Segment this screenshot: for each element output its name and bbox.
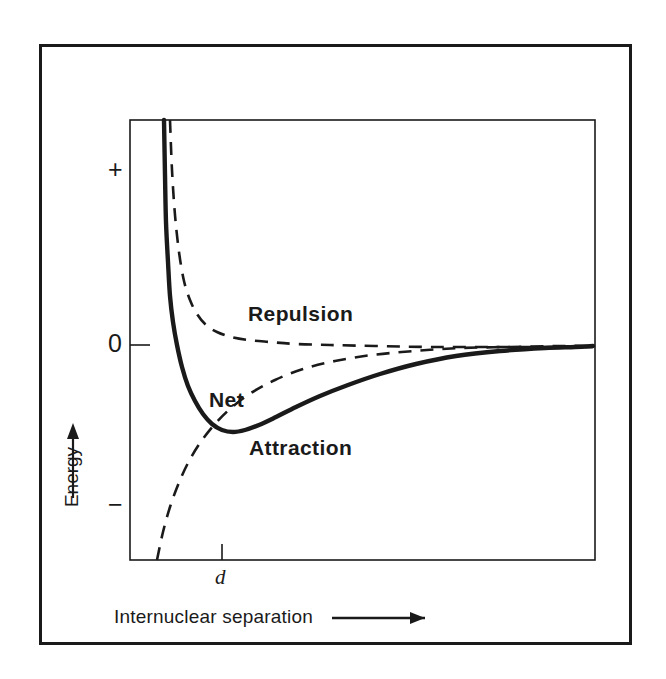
data-curves: [157, 120, 593, 560]
figure-page: + 0 − d Repulsion Net Attraction Energy …: [0, 0, 666, 679]
series-label-net: Net: [209, 388, 244, 412]
y-tick-label-plus: +: [108, 157, 123, 182]
y-tick-label-minus: −: [108, 492, 123, 517]
chart-canvas: [0, 0, 666, 679]
y-tick-label-zero: 0: [108, 331, 122, 356]
y-axis-label: Energy: [48, 400, 88, 570]
plot-frame: [130, 120, 595, 560]
curve-repulsion: [170, 120, 593, 347]
y-axis-label-text: Energy: [61, 407, 83, 547]
series-label-repulsion: Repulsion: [248, 302, 353, 326]
x-tick-label-d: d: [215, 565, 226, 590]
x-axis-arrow-icon: [332, 612, 425, 624]
x-axis-label-text: Internuclear separation: [114, 606, 313, 628]
series-label-attraction: Attraction: [249, 436, 352, 460]
curve-net: [164, 120, 593, 432]
curve-attraction: [157, 346, 593, 560]
